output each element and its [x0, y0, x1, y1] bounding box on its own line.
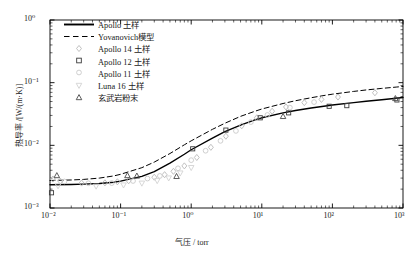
data-point-marker: [145, 176, 150, 181]
x-tick-label: 10⁰: [182, 211, 193, 220]
chart-figure: 热导率 /[W/(m·K)] 气压 / torr 10⁻²10⁻¹10⁰10¹1…: [0, 0, 414, 257]
data-point-marker: [139, 181, 145, 186]
data-point-marker: [157, 174, 162, 179]
y-axis-label: 热导率 /[W/(m·K)]: [13, 71, 24, 161]
dashed-line-key: [62, 31, 96, 42]
triangle-down-marker-key: [62, 80, 96, 91]
diamond-marker-key: [62, 43, 96, 54]
circle-marker-key: [62, 67, 96, 78]
data-point-marker: [182, 163, 187, 169]
series-3: [49, 98, 399, 195]
data-point-marker: [223, 133, 228, 139]
legend-item-label: Luna 16 土样: [96, 79, 144, 91]
legend-item-label: Apollo 12 土样: [96, 55, 150, 67]
data-point-marker: [125, 173, 131, 178]
data-point-marker: [218, 138, 223, 143]
legend-item: Apollo 土样: [62, 18, 154, 30]
data-point-marker: [194, 154, 199, 160]
data-point-marker: [188, 166, 194, 171]
legend-item: Apollo 11 土样: [62, 67, 154, 79]
legend-marker: [76, 83, 82, 88]
data-point-marker: [372, 90, 377, 96]
y-tick-label: 10⁻³: [24, 202, 39, 211]
x-tick-label: 10²: [323, 211, 333, 220]
series-0: [50, 97, 403, 184]
legend-item: Yovanovich模型: [62, 30, 154, 42]
legend-item-label: Yovanovich模型: [96, 30, 154, 42]
x-tick-label: 10¹: [253, 211, 263, 220]
data-point-marker: [166, 176, 172, 181]
x-tick-label: 10⁻²: [41, 211, 56, 220]
legend-item: 玄武岩粉末: [62, 91, 154, 103]
data-point-marker: [203, 148, 208, 153]
data-point-marker: [336, 94, 341, 100]
triangle-up-marker-key: [62, 92, 96, 103]
data-point-marker: [178, 171, 184, 176]
data-point-marker: [270, 108, 275, 114]
series-line: [50, 97, 403, 184]
data-point-marker: [208, 144, 213, 150]
y-tick-label: 10⁻²: [24, 139, 39, 148]
legend-item: Apollo 14 土样: [62, 42, 154, 54]
data-point-marker: [302, 100, 307, 106]
data-point-marker: [312, 100, 317, 105]
y-tick-label: 10⁰: [24, 14, 35, 23]
x-tick-label: 10³: [394, 211, 404, 220]
data-point-marker: [174, 173, 180, 178]
legend-item-label: Apollo 11 土样: [96, 67, 150, 79]
legend-item-label: 玄武岩粉末: [96, 91, 138, 103]
legend-item: Apollo 12 土样: [62, 55, 154, 67]
data-point-marker: [234, 129, 239, 134]
legend-item: Luna 16 土样: [62, 79, 154, 91]
y-tick-label: 10⁻¹: [24, 77, 39, 86]
x-axis-label: 气压 / torr: [175, 236, 209, 247]
chart-legend: Apollo 土样Yovanovich模型Apollo 14 土样Apollo …: [62, 18, 154, 103]
data-point-marker: [189, 158, 194, 163]
legend-marker: [77, 45, 82, 51]
data-point-marker: [171, 168, 176, 174]
legend-marker: [77, 70, 82, 75]
legend-item-label: Apollo 14 土样: [96, 42, 150, 54]
data-point-marker: [154, 179, 160, 184]
legend-item-label: Apollo 土样: [96, 18, 139, 30]
square-marker-key: [62, 55, 96, 66]
series-4: [62, 100, 316, 186]
data-point-marker: [280, 113, 286, 118]
data-point-marker: [121, 183, 127, 188]
legend-marker: [76, 94, 82, 99]
data-point-marker: [54, 173, 60, 178]
data-point-marker: [152, 174, 157, 180]
legend-marker: [77, 58, 82, 63]
data-point-marker: [79, 180, 84, 186]
data-point-marker: [93, 184, 99, 189]
solid-line-key: [62, 19, 96, 30]
x-tick-label: 10⁻¹: [112, 211, 127, 220]
data-point-marker: [319, 96, 324, 102]
data-point-marker: [176, 166, 181, 171]
